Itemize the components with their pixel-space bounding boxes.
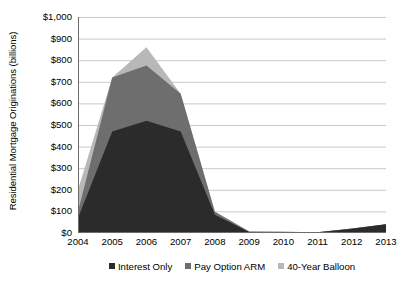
legend-item-40-year-balloon[interactable]: 40-Year Balloon [278,261,355,272]
y-axis-tick-labels: $0$100$200$300$400$500$600$700$800$900$1… [18,17,72,233]
legend-label: 40-Year Balloon [287,261,355,272]
y-tick-label: $900 [18,34,72,44]
legend-item-pay-option-arm[interactable]: Pay Option ARM [185,261,265,272]
x-tick-label: 2013 [366,236,401,248]
y-tick-label: $700 [18,77,72,87]
y-tick-label: $800 [18,55,72,65]
x-axis-tick-labels: 2004200520062007200820092010201120122013 [78,236,386,249]
legend-swatch-icon [278,263,284,269]
y-tick-label: $600 [18,98,72,108]
legend-label: Interest Only [118,261,172,272]
legend-swatch-icon [109,263,115,269]
y-tick-label: $200 [18,185,72,195]
y-tick-label: $500 [18,120,72,130]
legend-swatch-icon [185,263,191,269]
legend-label: Pay Option ARM [194,261,265,272]
stacked-area-series [78,47,386,233]
y-tick-label: $400 [18,142,72,152]
plot-svg [78,17,386,233]
y-tick-label: $1,000 [18,12,72,22]
chart-legend: Interest OnlyPay Option ARM40-Year Ballo… [78,258,386,274]
y-tick-label: $300 [18,163,72,173]
legend-item-interest-only[interactable]: Interest Only [109,261,172,272]
plot-area [78,17,386,233]
area-series-interest-only [78,121,386,233]
y-tick-label: $100 [18,206,72,216]
